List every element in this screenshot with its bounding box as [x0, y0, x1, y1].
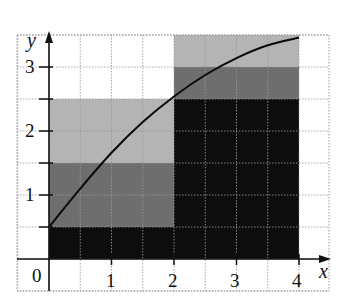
y-tick-label-1: 1 — [25, 184, 35, 205]
x-tick-label-4: 4 — [292, 270, 302, 291]
x-tick-label-2: 2 — [168, 270, 178, 291]
y-axis-label: y — [25, 29, 36, 52]
x-axis-label: x — [318, 260, 328, 282]
y-axis-arrow-icon — [45, 31, 53, 43]
x-tick-label-3: 3 — [230, 270, 240, 291]
y-tick-label-2: 2 — [25, 120, 35, 141]
y-tick-label-3: 3 — [25, 56, 35, 77]
origin-label: 0 — [32, 265, 42, 286]
chart-canvas: y x 0 1 2 3 4 1 2 3 — [0, 0, 346, 308]
x-tick-label-1: 1 — [106, 270, 116, 291]
